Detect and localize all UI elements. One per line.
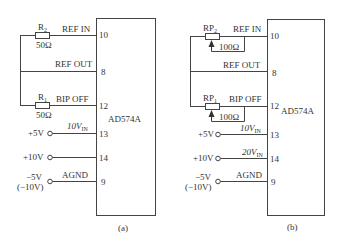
chip-box-b <box>268 20 325 216</box>
pin-14-b: 14 <box>270 154 280 164</box>
caption-a: (a) <box>118 223 128 233</box>
signal-20vin-b: 20VIN <box>242 147 263 158</box>
potentiometer-rp2 <box>206 34 220 40</box>
input-neg10v-b: (−10V) <box>185 182 212 192</box>
chip-label-b: AD574A <box>281 106 314 116</box>
terminal-5v-a <box>48 131 53 136</box>
pin-8-b: 8 <box>272 68 277 78</box>
pin-13-a: 13 <box>99 129 109 139</box>
rp2-label: RP2 <box>203 23 217 34</box>
terminal-10v-b <box>216 156 221 161</box>
chip-label-a: AD574A <box>108 114 141 124</box>
signal-bip-off-a: BIP OFF <box>56 94 88 104</box>
wiper-arrow-rp2-icon <box>209 40 215 47</box>
circuit-diagram: R2 50Ω REF IN 10 REF OUT 8 R1 BIP OFF 12… <box>0 0 338 247</box>
resistor-r1 <box>36 103 50 109</box>
rp1-label: RP1 <box>203 93 217 104</box>
caption-b: (b) <box>287 222 298 232</box>
rp1-value: 100Ω <box>219 112 240 122</box>
input-10v-a: +10V <box>23 152 44 162</box>
input-neg5v-b: −5V <box>195 172 212 182</box>
signal-ref-out-a: REF OUT <box>55 59 93 69</box>
r1-value: 50Ω <box>36 110 52 120</box>
signal-ref-out-b: REF OUT <box>223 60 261 70</box>
pin-13-b: 13 <box>270 130 280 140</box>
pin-9-a: 9 <box>101 177 106 187</box>
pin-10-b: 10 <box>270 31 280 41</box>
pin-14-a: 14 <box>99 153 109 163</box>
resistor-r2 <box>36 33 50 39</box>
input-5v-b: +5V <box>198 129 215 139</box>
signal-10vin-b: 10VIN <box>240 123 261 134</box>
pin-10-a: 10 <box>99 30 109 40</box>
signal-ref-in-a: REF IN <box>62 24 91 34</box>
input-neg5v-a: −5V <box>26 172 43 182</box>
pin-9-b: 9 <box>271 177 276 187</box>
terminal-10v-a <box>48 155 53 160</box>
r1-label: R1 <box>38 92 47 103</box>
signal-10vin-a: 10VIN <box>67 121 88 132</box>
signal-ref-in-b: REF IN <box>233 24 262 34</box>
r2-value: 50Ω <box>36 40 52 50</box>
input-5v-a: +5V <box>28 128 45 138</box>
pin-12-b: 12 <box>270 101 279 111</box>
rp2-value: 100Ω <box>219 42 240 52</box>
signal-agnd-b: AGND <box>236 170 262 180</box>
terminal-neg5v-b <box>216 179 221 184</box>
wiper-arrow-rp1-icon <box>209 110 215 117</box>
pin-12-a: 12 <box>99 101 108 111</box>
signal-bip-off-b: BIP OFF <box>229 94 261 104</box>
terminal-neg5v-a <box>48 179 53 184</box>
input-10v-b: +10V <box>193 153 214 163</box>
terminal-5v-b <box>216 132 221 137</box>
pin-8-a: 8 <box>101 67 106 77</box>
signal-agnd-a: AGND <box>62 170 88 180</box>
r2-label: R2 <box>38 22 47 33</box>
input-neg10v-a: (−10V) <box>17 182 44 192</box>
potentiometer-rp1 <box>206 104 220 110</box>
